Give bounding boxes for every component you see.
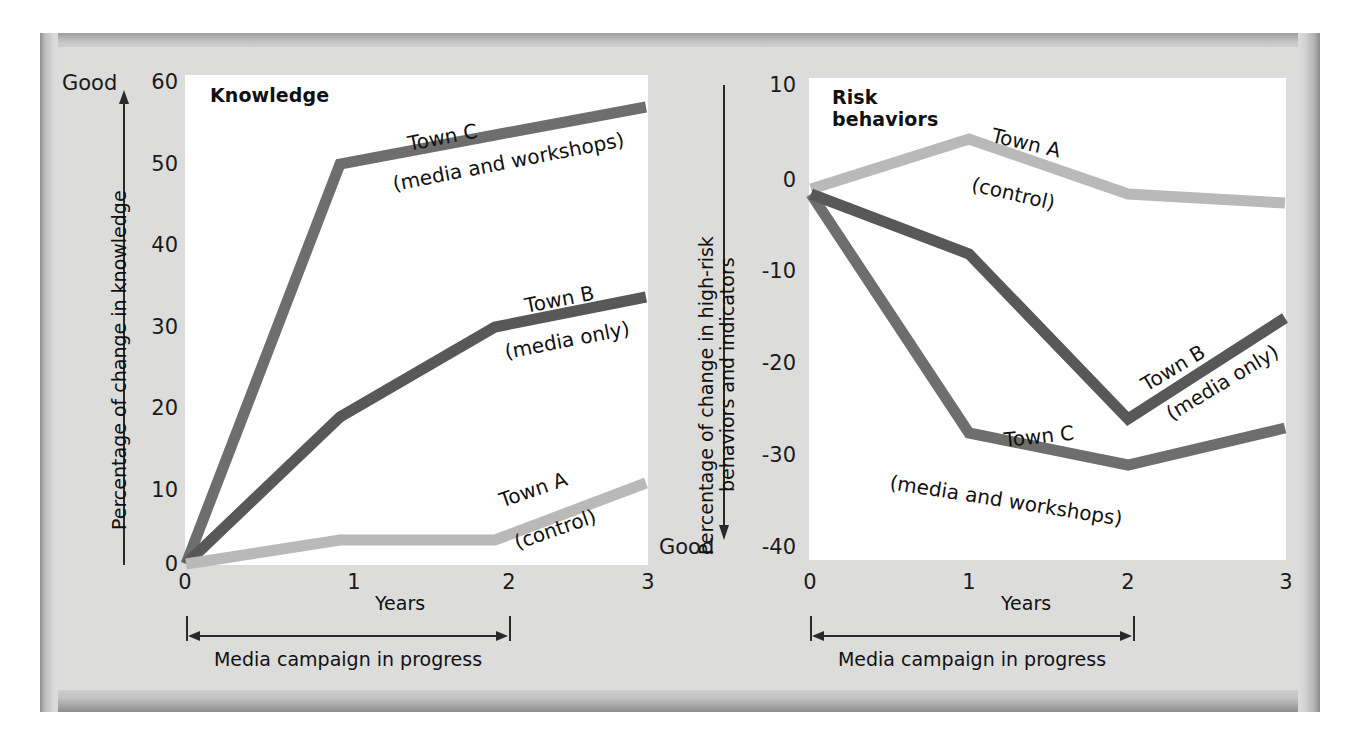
figure-root: Knowledge Good Percentage of change in k… (0, 0, 1366, 742)
